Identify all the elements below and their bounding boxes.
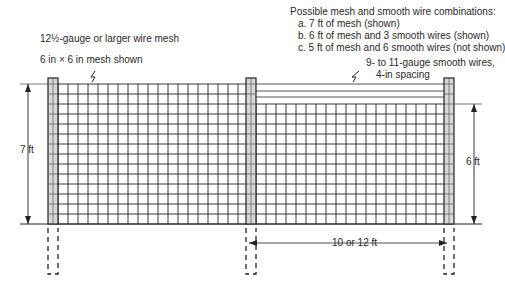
arrow-down-icon bbox=[25, 216, 31, 224]
buried-post-outline bbox=[48, 228, 58, 274]
arrow-left-icon bbox=[249, 240, 257, 246]
arrow-down-icon bbox=[471, 216, 477, 224]
arrow-right-icon bbox=[439, 240, 447, 246]
buried-post-outline bbox=[444, 228, 454, 274]
wire-pointer-icon bbox=[352, 71, 359, 82]
mesh-pointer-icon bbox=[91, 71, 95, 82]
buried-post-outline bbox=[246, 228, 256, 274]
arrow-up-icon bbox=[25, 84, 31, 92]
right-mesh bbox=[256, 104, 444, 224]
arrow-up-icon bbox=[471, 104, 477, 112]
left-mesh bbox=[58, 84, 246, 224]
